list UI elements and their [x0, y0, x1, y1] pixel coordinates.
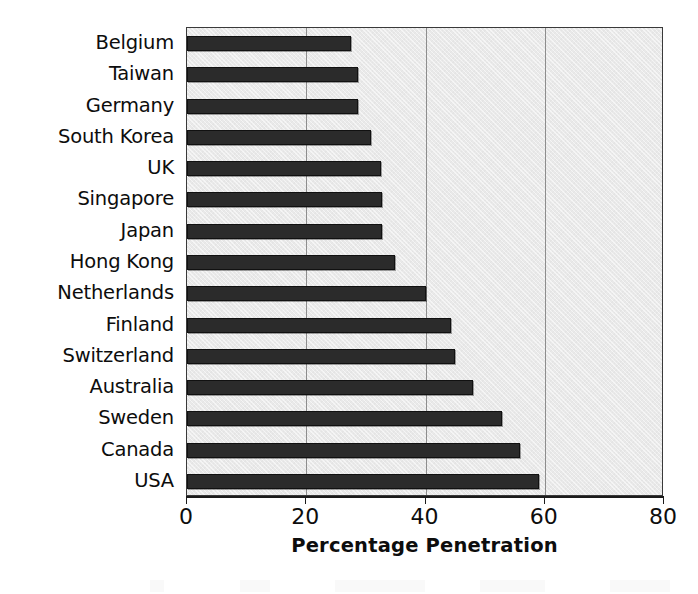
bar-row: [187, 372, 662, 403]
category-label-taiwan: Taiwan: [109, 58, 174, 89]
category-label-singapore: Singapore: [77, 183, 174, 214]
bar-row: [187, 91, 662, 122]
x-tick-40: [425, 496, 426, 504]
x-axis-title: Percentage Penetration: [186, 534, 663, 557]
bar-chart-figure: BelgiumTaiwanGermanySouth KoreaUKSingapo…: [0, 0, 698, 594]
x-tick-20: [305, 496, 306, 504]
x-tick-label-0: 0: [146, 504, 226, 529]
bar-sweden: [187, 411, 502, 426]
bar-row: [187, 278, 662, 309]
bar-row: [187, 28, 662, 59]
page-scan-artifact: [150, 580, 670, 592]
bar-row: [187, 184, 662, 215]
plot-area: [186, 27, 663, 496]
bar-netherlands: [187, 286, 426, 301]
bar-belgium: [187, 36, 351, 51]
bar-taiwan: [187, 67, 358, 82]
x-tick-80: [663, 496, 664, 504]
category-label-hong-kong: Hong Kong: [70, 246, 174, 277]
bar-row: [187, 122, 662, 153]
bar-uk: [187, 161, 381, 176]
category-axis-labels: BelgiumTaiwanGermanySouth KoreaUKSingapo…: [0, 27, 180, 496]
bar-row: [187, 59, 662, 90]
bar-row: [187, 247, 662, 278]
category-label-australia: Australia: [90, 371, 174, 402]
category-label-switzerland: Switzerland: [62, 340, 174, 371]
bar-germany: [187, 99, 358, 114]
category-label-uk: UK: [147, 152, 174, 183]
category-label-finland: Finland: [106, 308, 174, 339]
category-label-germany: Germany: [86, 90, 174, 121]
bar-switzerland: [187, 349, 455, 364]
bar-row: [187, 216, 662, 247]
bar-usa: [187, 474, 539, 489]
bar-hong-kong: [187, 255, 395, 270]
bar-row: [187, 434, 662, 465]
category-label-netherlands: Netherlands: [57, 277, 174, 308]
bar-row: [187, 466, 662, 497]
bar-south-korea: [187, 130, 371, 145]
bar-finland: [187, 318, 451, 333]
x-tick-label-80: 80: [623, 504, 698, 529]
category-label-usa: USA: [134, 465, 174, 496]
bar-row: [187, 341, 662, 372]
bar-singapore: [187, 192, 382, 207]
x-tick-label-60: 60: [504, 504, 584, 529]
bar-row: [187, 309, 662, 340]
x-tick-60: [544, 496, 545, 504]
bar-row: [187, 403, 662, 434]
category-label-south-korea: South Korea: [58, 121, 174, 152]
bar-canada: [187, 443, 520, 458]
bar-australia: [187, 380, 473, 395]
x-tick-label-20: 20: [265, 504, 345, 529]
bar-row: [187, 153, 662, 184]
category-label-japan: Japan: [121, 215, 174, 246]
bar-japan: [187, 224, 382, 239]
category-label-belgium: Belgium: [95, 27, 174, 58]
x-tick-label-40: 40: [385, 504, 465, 529]
category-label-sweden: Sweden: [98, 402, 174, 433]
category-label-canada: Canada: [101, 433, 174, 464]
x-tick-0: [186, 496, 187, 504]
